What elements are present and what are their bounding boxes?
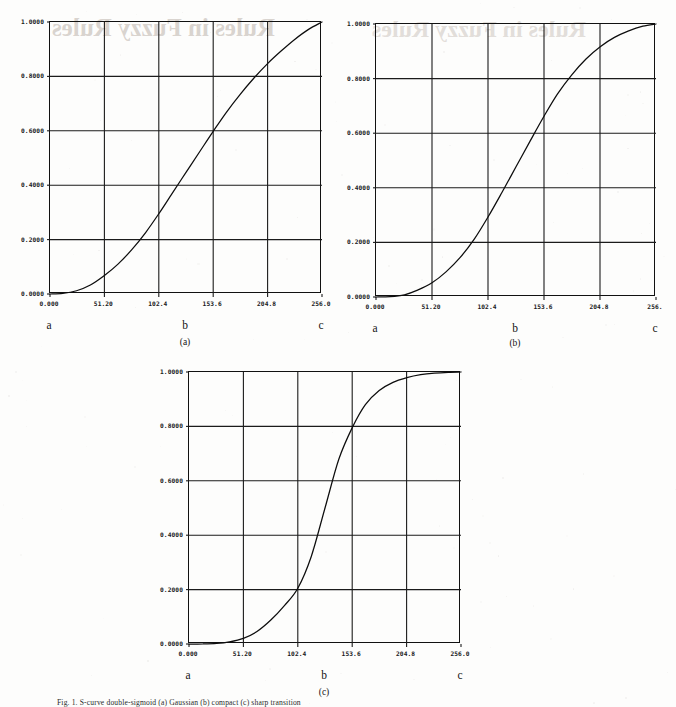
y-tick-label: 0.8000 bbox=[21, 72, 44, 79]
x-tick-label: 153.6 bbox=[342, 650, 361, 657]
chart-svg-c bbox=[189, 372, 461, 644]
y-tick-label: 0.0000 bbox=[160, 640, 183, 647]
sub-caption: (a) bbox=[180, 337, 191, 347]
axis-ticks bbox=[373, 24, 656, 300]
sub-caption: (c) bbox=[319, 687, 330, 697]
y-tick-label: 1.0000 bbox=[347, 20, 370, 27]
chart-svg-a bbox=[50, 22, 322, 294]
x-tick-label: 102.4 bbox=[477, 303, 496, 310]
x-tick-label: 102.4 bbox=[148, 300, 167, 307]
axis-ticks bbox=[47, 22, 322, 297]
y-tick-label: 0.8000 bbox=[347, 74, 370, 81]
x-tick-label: 0.000 bbox=[39, 300, 58, 307]
axis-marker-c: c bbox=[318, 319, 323, 331]
y-tick-label: 0.2000 bbox=[160, 585, 183, 592]
x-tick-label: 153.6 bbox=[533, 303, 552, 310]
x-tick-label: 0.000 bbox=[178, 650, 197, 657]
data-curve bbox=[376, 24, 656, 297]
x-tick-label: 102.4 bbox=[287, 650, 306, 657]
axis-marker-c: c bbox=[457, 669, 462, 681]
y-tick-label: 0.2000 bbox=[347, 238, 370, 245]
axis-ticks bbox=[186, 372, 461, 647]
y-tick-label: 0.4000 bbox=[160, 531, 183, 538]
axis-marker-b: b bbox=[182, 319, 188, 331]
y-tick-label: 0.6000 bbox=[21, 126, 44, 133]
x-tick-label: 256. bbox=[647, 303, 662, 310]
axis-marker-c: c bbox=[652, 322, 657, 334]
x-tick-label: 153.6 bbox=[203, 300, 222, 307]
x-tick-label: 204.8 bbox=[257, 300, 276, 307]
y-tick-label: 0.8000 bbox=[160, 422, 183, 429]
y-tick-label: 0.0000 bbox=[347, 293, 370, 300]
plot-area-b bbox=[375, 23, 655, 296]
data-curve bbox=[189, 372, 461, 644]
x-tick-label: 51.20 bbox=[94, 300, 113, 307]
y-tick-label: 1.0000 bbox=[21, 18, 44, 25]
x-tick-label: 256.0 bbox=[450, 650, 469, 657]
chart-panel-a: 0.00000.20000.40000.60000.80001.00000.00… bbox=[0, 0, 338, 352]
data-curve bbox=[50, 22, 322, 294]
y-tick-label: 0.4000 bbox=[21, 181, 44, 188]
axis-marker-a: a bbox=[372, 322, 377, 334]
gridlines bbox=[50, 22, 322, 294]
figure-caption: Fig. 1. S-curve double-sigmoid (a) Gauss… bbox=[57, 698, 301, 707]
axis-marker-b: b bbox=[512, 322, 518, 334]
y-tick-label: 0.2000 bbox=[21, 235, 44, 242]
gridlines bbox=[376, 24, 656, 297]
x-tick-label: 0.000 bbox=[365, 303, 384, 310]
chart-svg-b bbox=[376, 24, 656, 297]
x-tick-label: 204.8 bbox=[589, 303, 608, 310]
y-tick-label: 0.6000 bbox=[347, 129, 370, 136]
sub-caption: (b) bbox=[509, 338, 520, 348]
x-tick-label: 204.8 bbox=[396, 650, 415, 657]
plot-area-c bbox=[188, 371, 460, 643]
y-tick-label: 0.6000 bbox=[160, 476, 183, 483]
axis-marker-b: b bbox=[321, 669, 327, 681]
x-tick-label: 51.20 bbox=[421, 303, 440, 310]
y-tick-label: 0.0000 bbox=[21, 290, 44, 297]
x-tick-label: 51.20 bbox=[233, 650, 252, 657]
chart-panel-c: 0.00000.20000.40000.60000.80001.00000.00… bbox=[0, 352, 676, 706]
axis-marker-a: a bbox=[46, 319, 51, 331]
axis-marker-a: a bbox=[185, 669, 190, 681]
y-tick-label: 1.0000 bbox=[160, 368, 183, 375]
plot-area-a bbox=[49, 21, 321, 293]
y-tick-label: 0.4000 bbox=[347, 183, 370, 190]
chart-panel-b: 0.00000.20000.40000.60000.80001.00000.00… bbox=[338, 0, 676, 352]
x-tick-label: 256.0 bbox=[311, 300, 330, 307]
